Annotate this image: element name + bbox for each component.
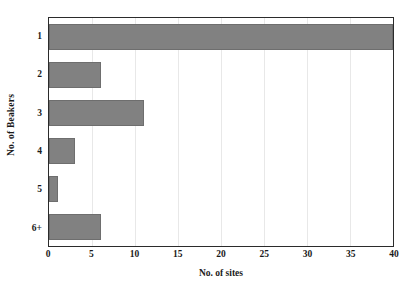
bars-layer xyxy=(49,18,393,246)
y-tick-label: 3 xyxy=(22,94,47,132)
bar-row xyxy=(49,170,393,208)
bar-row xyxy=(49,132,393,170)
x-tick-label: 25 xyxy=(260,249,270,259)
x-tick-label: 20 xyxy=(216,249,226,259)
bar-4 xyxy=(49,138,75,164)
bar-6+ xyxy=(49,214,101,240)
x-tick-label: 15 xyxy=(173,249,183,259)
x-tick-label: 30 xyxy=(303,249,313,259)
y-axis-title: No. of Beakers xyxy=(0,0,22,250)
x-tick-label: 5 xyxy=(89,249,94,259)
y-tick-label: 2 xyxy=(22,55,47,93)
y-axis-tick-labels: 123456+ xyxy=(22,17,47,247)
bar-5 xyxy=(49,176,58,202)
bar-1 xyxy=(49,24,393,50)
y-tick-label: 1 xyxy=(22,17,47,55)
bar-row xyxy=(49,208,393,246)
x-axis-tick-labels: 0510152025303540 xyxy=(48,249,394,264)
bar-chart-figure: No. of Beakers 123456+ 0510152025303540 … xyxy=(0,0,416,294)
bar-row xyxy=(49,94,393,132)
y-tick-label: 4 xyxy=(22,132,47,170)
bar-row xyxy=(49,18,393,56)
x-tick-label: 40 xyxy=(389,249,399,259)
x-tick-label: 35 xyxy=(346,249,356,259)
x-tick-label: 0 xyxy=(46,249,51,259)
plot-area xyxy=(48,17,394,247)
x-tick-label: 10 xyxy=(130,249,140,259)
bar-row xyxy=(49,56,393,94)
bar-2 xyxy=(49,62,101,88)
y-tick-label: 6+ xyxy=(22,209,47,247)
bar-3 xyxy=(49,100,144,126)
x-axis-title: No. of sites xyxy=(48,268,394,278)
y-tick-label: 5 xyxy=(22,170,47,208)
y-axis-title-text: No. of Beakers xyxy=(6,94,16,156)
x-axis-title-text: No. of sites xyxy=(199,268,243,278)
